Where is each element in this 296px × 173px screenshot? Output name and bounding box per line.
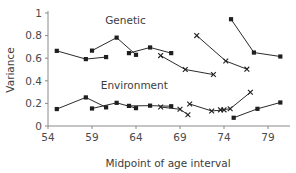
- data-point-square: [134, 53, 138, 57]
- series-genetic-cross-1: [158, 53, 216, 77]
- y-tick-label: 0.6: [25, 52, 42, 64]
- series-line: [161, 107, 188, 115]
- data-point-square: [115, 36, 119, 40]
- data-point-square: [127, 104, 131, 108]
- data-point-cross: [186, 112, 191, 117]
- x-tick-label: 74: [217, 131, 231, 143]
- annotation-label-1: Environment: [101, 79, 168, 91]
- series-environment-square-4: [232, 100, 283, 119]
- data-point-cross: [244, 67, 249, 72]
- data-point-square: [55, 49, 59, 53]
- x-tick-label: 79: [261, 131, 274, 143]
- data-point-square: [148, 104, 152, 108]
- data-point-square: [55, 107, 59, 111]
- series-line: [220, 92, 250, 110]
- data-point-cross: [187, 102, 192, 107]
- data-point-square: [134, 106, 138, 110]
- x-tick-label: 54: [41, 131, 55, 143]
- data-point-square: [232, 116, 236, 120]
- annotation-label-0: Genetic: [105, 14, 146, 26]
- data-point-square: [148, 45, 152, 49]
- data-point-square: [252, 50, 256, 54]
- data-point-square: [278, 100, 282, 104]
- x-axis-title: Midpoint of age interval: [105, 157, 230, 169]
- data-point-square: [169, 51, 173, 55]
- x-axis-ticks: 545964697479: [41, 126, 274, 143]
- x-tick-label: 64: [129, 131, 143, 143]
- data-point-square: [90, 106, 94, 110]
- data-point-cross: [194, 33, 199, 38]
- series-line: [197, 36, 247, 70]
- series-line: [57, 51, 106, 59]
- y-axis-title: Variance: [4, 47, 16, 92]
- series-environment-cross-2: [187, 102, 226, 114]
- series-environment-square-1: [55, 95, 108, 111]
- data-point-cross: [223, 59, 228, 64]
- y-tick-label: 1: [35, 7, 42, 19]
- series-genetic-cross-2: [194, 33, 249, 71]
- y-tick-label: 0: [35, 120, 42, 132]
- data-point-square: [90, 49, 94, 53]
- data-point-cross: [248, 90, 253, 95]
- data-point-square: [115, 101, 119, 105]
- y-tick-label: 0.8: [25, 29, 42, 41]
- x-tick-label: 69: [173, 131, 186, 143]
- data-point-square: [104, 55, 108, 59]
- variance-by-age-chart: 00.20.40.60.81 545964697479 GeneticEnvir…: [0, 0, 296, 173]
- data-series-layer: [55, 17, 283, 120]
- data-point-square: [255, 107, 259, 111]
- data-point-square: [127, 51, 131, 55]
- data-point-cross: [158, 53, 163, 58]
- x-tick-label: 59: [85, 131, 98, 143]
- annotation-layer: GeneticEnvironment: [101, 14, 168, 92]
- y-tick-label: 0.2: [25, 97, 42, 109]
- series-genetic-square-3: [127, 45, 173, 55]
- y-axis-ticks: 00.20.40.60.81: [25, 7, 48, 132]
- chart-canvas: 00.20.40.60.81 545964697479 GeneticEnvir…: [0, 0, 296, 173]
- y-tick-label: 0.4: [25, 75, 42, 87]
- data-point-square: [84, 95, 88, 99]
- series-genetic-square-4: [229, 17, 282, 58]
- data-point-square: [229, 17, 233, 21]
- data-point-square: [278, 54, 282, 58]
- series-genetic-square-1: [55, 49, 108, 61]
- data-point-square: [84, 57, 88, 61]
